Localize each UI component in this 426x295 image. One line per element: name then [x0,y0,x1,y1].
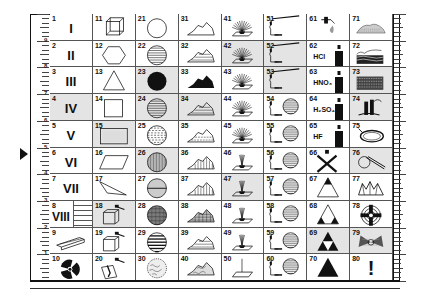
ruler-tick [394,18,401,19]
acid-label: HCl [313,53,325,60]
ruler-tick [40,214,49,215]
ruler-tick [394,99,401,100]
symbol-cell-19: 19 [93,228,136,255]
symbol-cell-20: 20 [93,254,136,281]
symbol-cell-41: 41 [222,14,265,41]
symbol-cell-1: 1I [50,14,93,41]
ruler-tick [42,232,49,233]
symbol-cell-75: 75 [350,121,393,148]
loop-tool-icon [350,148,392,174]
acid-bottle-icon [335,45,343,67]
roman-numeral: IV [50,101,92,116]
ruler-tick [42,130,49,131]
ruler-tick [394,32,401,33]
symbol-cell-44: 44 [222,94,265,121]
pointer-arrow-icon [20,148,28,160]
cell-number: 63 [309,68,317,75]
symbol-cell-4: 4IV [50,94,93,121]
symbol-cell-79: 79 [350,228,393,255]
symbol-cell-51: 51 [264,14,307,41]
mountain-lines-icon [179,94,221,120]
ruler-tick [394,67,406,68]
symbol-cell-61: 61 [307,14,350,41]
symbol-cell-23: 23 [136,67,179,94]
symbol-cell-53: 53 [264,67,307,94]
ruler-tick [40,27,49,28]
ruler-tick [42,156,49,157]
symbol-cell-24: 24 [136,94,179,121]
symbol-cell-2: 2II [50,41,93,68]
ring-icon [350,121,392,147]
symbol-cell-13: 13 [93,67,136,94]
ruler-tick [394,14,406,15]
ruler-label: 9 [44,37,47,43]
roman-numeral: I [50,21,92,36]
light-narrow-icon [222,174,264,200]
symbol-cell-57: 57 [264,174,307,201]
symbol-cell-67: 67 [307,174,350,201]
ruler-tick [42,112,49,113]
pipes-icon [350,94,392,120]
ruler-tick [42,50,49,51]
symbol-cell-50: 50 [222,254,265,281]
ruler-right: 987654321 [393,14,401,281]
symbol-cell-64: 64H₂SO₄ [307,94,350,121]
ruler-tick [394,174,406,175]
light-fan-icon [222,41,264,67]
ruler-label: 4 [44,170,47,176]
ruler-tick [394,116,401,117]
symbol-cell-49: 49 [222,228,265,255]
ruler-tick [40,134,49,135]
acid-bottle-icon [335,125,343,147]
parallelogram-icon [93,148,135,174]
hexagon-icon [93,41,135,67]
light-narrow-icon [222,228,264,254]
circle-dashed-lines-icon [136,121,178,147]
circle-empty-icon [136,14,178,40]
ruler-tick [394,179,401,180]
symbol-cell-45: 45 [222,121,265,148]
symbol-cell-71: 71 [350,14,393,41]
circle-filled-icon [136,67,178,93]
burner-sphere-icon [264,201,306,227]
ruler-tick [42,219,49,220]
ruler-tick [42,23,49,24]
ruler-tick [394,139,401,140]
symbol-cell-38: 38 [179,201,222,228]
ruler-tick [394,130,401,131]
ruler-tick [42,45,49,46]
ruler-tick [394,134,403,135]
symbol-cell-16: 16 [93,148,136,175]
symbol-cell-62: 62HCl [307,41,350,68]
light-fan-icon [222,121,264,147]
ruler-tick [394,59,401,60]
ruler-tick [42,103,49,104]
ruler-tick [394,103,401,104]
ruler-tick [394,277,401,278]
ruler-tick [42,165,49,166]
symbol-grid: 1I2II3III4IV5V6VI7VII8VIII91011121314151… [50,14,393,281]
symbol-cell-5: 5V [50,121,93,148]
roman-numeral: VIII [50,210,72,224]
symbol-cell-31: 31 [179,14,222,41]
symbol-cell-73: 73 [350,67,393,94]
ruler-tick [394,183,401,184]
circle-horizontal-lines-icon [136,41,178,67]
ruler-label: 5 [44,144,47,150]
cell-number: 64 [309,95,317,102]
symbol-cell-80: 80! [350,254,393,281]
frame-bottom [30,280,400,282]
ruler-tick [42,72,49,73]
acid-label: HNO₃ [313,79,332,86]
triangle-filled-icon [307,254,349,280]
beam-icon [50,228,92,254]
symbol-cell-14: 14 [93,94,136,121]
ruler-tick [394,152,401,153]
ruler-tick [394,161,403,162]
symbol-cell-63: 63HNO₃ [307,67,350,94]
ruler-tick [394,237,401,238]
symbol-cell-37: 37 [179,174,222,201]
ruler-tick [394,72,401,73]
ruler-tick [394,85,401,86]
ruler-label: 7 [44,90,47,96]
